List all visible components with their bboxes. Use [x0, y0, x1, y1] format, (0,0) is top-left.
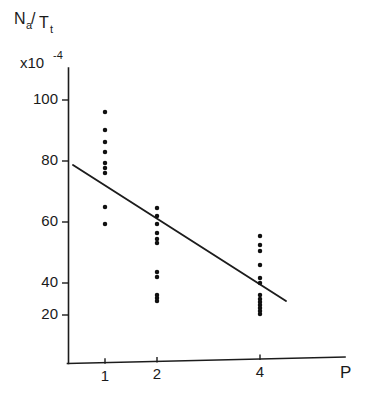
data-point: [155, 206, 160, 211]
y-axis-fraction-slash: /: [31, 10, 36, 27]
data-point: [103, 171, 108, 176]
regression-trend-line: [73, 165, 286, 301]
data-point: [258, 276, 263, 281]
data-point: [155, 214, 160, 219]
data-point: [258, 281, 263, 286]
data-point: [258, 263, 263, 268]
x-axis-tick-label: 4: [256, 363, 264, 380]
data-point: [155, 231, 160, 236]
data-point: [258, 249, 263, 254]
y-axis-title-group: N a / T t: [14, 10, 53, 35]
data-point: [258, 312, 263, 317]
data-point: [103, 128, 108, 133]
data-points-group: [103, 110, 263, 317]
y-axis-tick-label: 40: [41, 273, 58, 290]
data-point: [155, 237, 160, 242]
data-point: [155, 222, 160, 227]
data-point: [103, 166, 108, 171]
data-point-cluster: [258, 234, 263, 317]
scatter-plot-canvas: N a / T t x10 -4 P 20406080100 124: [0, 0, 365, 393]
data-point: [155, 275, 160, 280]
data-point: [103, 161, 108, 166]
y-axis-multiplier-base: x10: [20, 54, 44, 71]
data-point-cluster: [103, 110, 108, 227]
data-point: [155, 299, 160, 304]
y-axis-tick-label: 60: [41, 212, 58, 229]
y-axis-numerator-label: N: [14, 10, 26, 27]
data-point: [258, 293, 263, 298]
y-axis-tick-label: 80: [41, 151, 58, 168]
y-axis-denominator-subscript: t: [50, 23, 53, 35]
x-axis-tick-label: 1: [101, 367, 109, 384]
y-axis-multiplier-exponent: -4: [53, 49, 63, 61]
x-axis-title-label: P: [340, 363, 351, 382]
y-axis-denominator-label: T: [39, 14, 49, 31]
data-point: [103, 205, 108, 210]
y-axis-tick-label: 20: [41, 305, 58, 322]
y-axis-multiplier-group: x10 -4: [20, 49, 63, 71]
x-axis-line: [68, 357, 346, 364]
data-point: [103, 140, 108, 145]
trend-line-group: [73, 165, 286, 301]
data-point: [103, 110, 108, 115]
data-point: [258, 243, 263, 248]
figure-container: N a / T t x10 -4 P 20406080100 124: [0, 0, 365, 393]
data-point: [103, 222, 108, 227]
data-point: [155, 270, 160, 275]
y-axis-tick-label: 100: [33, 90, 58, 107]
y-axis-ticks-group: 20406080100: [33, 90, 69, 322]
data-point: [103, 150, 108, 155]
data-point: [155, 241, 160, 246]
x-axis-tick-label: 2: [153, 365, 161, 382]
data-point: [258, 234, 263, 239]
